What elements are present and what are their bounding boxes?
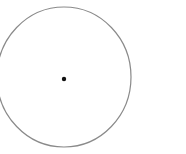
center-point (62, 77, 66, 81)
circle-diagram (0, 0, 186, 154)
circle-outline (0, 7, 131, 147)
